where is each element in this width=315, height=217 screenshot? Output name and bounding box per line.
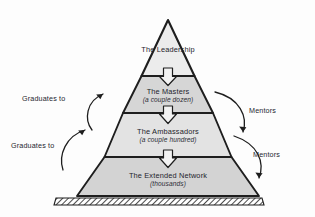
side-label-graduates-to-lower: Graduates to [11, 141, 54, 150]
side-label-mentors-lower: Mentors [253, 150, 280, 159]
side-label-mentors-upper: Mentors [249, 106, 276, 115]
graduates-to-upper-arrow-icon [87, 94, 103, 130]
side-label-graduates-to-upper: Graduates to [22, 94, 65, 103]
pyramid-base-shadow [54, 198, 264, 205]
mentors-lower-arrowhead-icon [255, 172, 262, 178]
pyramid-diagram: The Leadership The Masters (a couple doz… [0, 0, 315, 217]
graduates-to-lower-arrow-icon [62, 130, 85, 170]
mentors-upper-arrowhead-icon [239, 127, 246, 132]
